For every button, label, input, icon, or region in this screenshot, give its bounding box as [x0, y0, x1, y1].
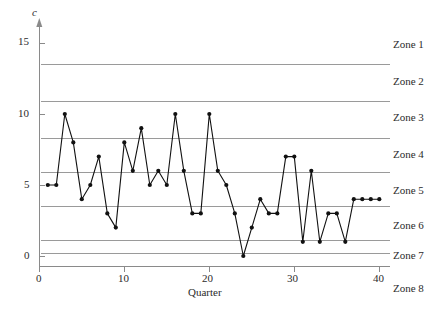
data-point-marker	[182, 169, 186, 173]
data-point-marker	[71, 140, 75, 144]
zone-label-1: Zone 1	[393, 38, 424, 50]
data-point-marker	[131, 169, 135, 173]
y-axis-label: c	[32, 6, 37, 18]
data-point-marker	[88, 183, 92, 187]
data-point-marker	[46, 183, 50, 187]
data-point-marker	[267, 211, 271, 215]
data-point-marker	[301, 240, 305, 244]
data-series-c	[46, 112, 382, 258]
zone-label-6: Zone 6	[393, 219, 424, 231]
data-point-marker	[309, 169, 313, 173]
y-axis-arrow-icon	[36, 18, 42, 27]
data-point-marker	[216, 169, 220, 173]
x-axis-title: Quarter	[188, 286, 222, 298]
zone-label-2: Zone 2	[393, 75, 424, 87]
y-tick-label-10: 10	[18, 107, 29, 119]
data-point-marker	[284, 155, 288, 159]
data-point-marker	[369, 197, 373, 201]
data-point-marker	[80, 197, 84, 201]
data-point-marker	[335, 211, 339, 215]
data-point-marker	[292, 155, 296, 159]
data-point-marker	[54, 183, 58, 187]
x-tick-label-20: 20	[202, 272, 213, 284]
x-tick-label-0: 0	[36, 272, 42, 284]
zone-label-7: Zone 7	[393, 249, 424, 261]
series-line	[48, 114, 380, 256]
data-point-marker	[63, 112, 67, 116]
data-point-marker	[122, 140, 126, 144]
data-point-marker	[241, 254, 245, 258]
data-point-marker	[233, 211, 237, 215]
x-tick-label-30: 30	[287, 272, 298, 284]
data-point-marker	[165, 183, 169, 187]
y-tick-label-5: 5	[24, 178, 30, 190]
zone-label-8: Zone 8	[393, 282, 424, 294]
x-tick-label-40: 40	[373, 272, 384, 284]
data-point-marker	[224, 183, 228, 187]
data-point-marker	[190, 211, 194, 215]
data-point-marker	[352, 197, 356, 201]
data-point-marker	[199, 211, 203, 215]
data-point-marker	[360, 197, 364, 201]
data-point-marker	[343, 240, 347, 244]
data-point-marker	[97, 155, 101, 159]
chart-plot-area	[0, 0, 447, 314]
data-point-marker	[250, 226, 254, 230]
data-point-marker	[275, 211, 279, 215]
zone-label-4: Zone 4	[393, 148, 424, 160]
data-point-marker	[105, 211, 109, 215]
data-point-marker	[114, 226, 118, 230]
data-point-marker	[148, 183, 152, 187]
data-point-marker	[258, 197, 262, 201]
data-point-marker	[318, 240, 322, 244]
data-point-marker	[377, 197, 381, 201]
zone-label-5: Zone 5	[393, 184, 424, 196]
chart-figure: c 15 10 5 0 0 10 20 30 40 Quarter Zone 1…	[0, 0, 447, 314]
y-tick-label-0: 0	[24, 249, 30, 261]
data-point-marker	[207, 112, 211, 116]
data-point-marker	[156, 169, 160, 173]
data-point-marker	[139, 126, 143, 130]
data-point-marker	[326, 211, 330, 215]
data-point-marker	[173, 112, 177, 116]
y-tick-label-15: 15	[18, 35, 29, 47]
zone-label-3: Zone 3	[393, 111, 424, 123]
x-tick-label-10: 10	[118, 272, 129, 284]
chart-axes	[36, 18, 390, 272]
